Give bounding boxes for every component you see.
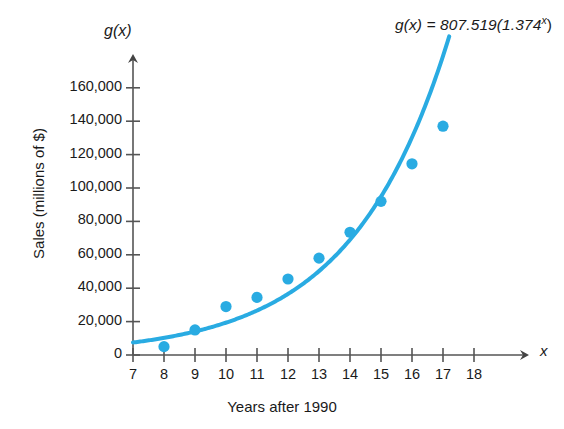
data-point <box>375 196 386 207</box>
plot-area <box>0 0 564 429</box>
exponential-regression-chart: g(x) = 807.519(1.374x) g(x) x Sales (mil… <box>0 0 564 429</box>
data-point <box>189 324 200 335</box>
regression-curve <box>133 36 449 342</box>
data-point <box>251 292 262 303</box>
data-point <box>158 341 169 352</box>
data-point <box>344 227 355 238</box>
data-point <box>220 301 231 312</box>
data-point <box>313 253 324 264</box>
data-point <box>406 158 417 169</box>
data-point <box>437 121 448 132</box>
data-point <box>282 273 293 284</box>
